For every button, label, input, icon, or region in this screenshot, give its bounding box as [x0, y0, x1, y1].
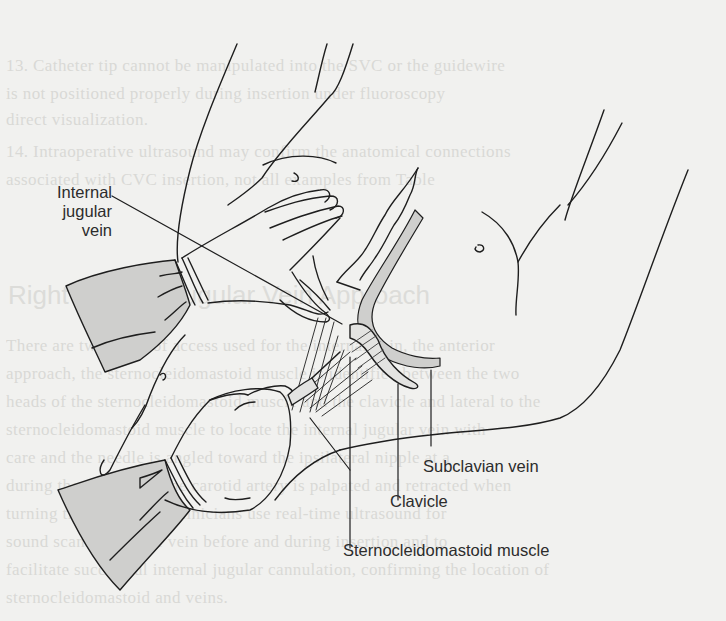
label-internal-jugular-vein: Internal jugular vein	[30, 183, 112, 240]
neck-anatomy	[292, 168, 440, 416]
label-subclavian-vein: Subclavian vein	[423, 457, 539, 476]
needle-hand	[58, 335, 295, 590]
patient-body-outline	[177, 44, 688, 500]
label-line: jugular	[30, 202, 112, 221]
label-sternocleidomastoid-muscle: Sternocleidomastoid muscle	[343, 541, 549, 560]
anatomical-illustration	[0, 0, 726, 621]
label-line: Internal	[30, 183, 112, 202]
figure-page: 13. Catheter tip cannot be manipulated i…	[0, 0, 726, 621]
label-clavicle: Clavicle	[390, 492, 448, 511]
label-line: vein	[30, 221, 112, 240]
